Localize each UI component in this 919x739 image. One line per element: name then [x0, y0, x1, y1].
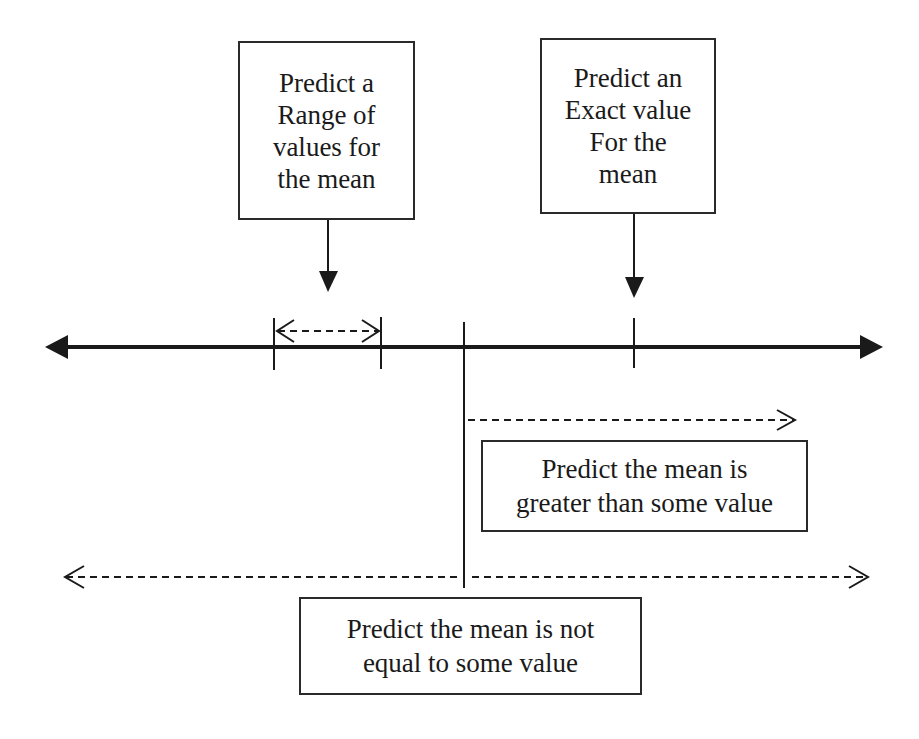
- exact-prediction-box: Predict an Exact value For the mean: [540, 38, 716, 214]
- exact-prediction-label: Predict an Exact value For the mean: [565, 62, 692, 190]
- greater-than-prediction-box: Predict the mean is greater than some va…: [481, 440, 808, 532]
- range-prediction-box: Predict a Range of values for the mean: [238, 41, 415, 220]
- greater-than-dashed-arrow: [468, 410, 795, 430]
- exact-box-pointer-arrow: [625, 214, 644, 298]
- down-arrowhead-icon: [625, 277, 644, 298]
- range-box-pointer-arrow: [319, 220, 338, 292]
- not-equal-dashed-arrow: [65, 566, 868, 588]
- greater-than-prediction-label: Predict the mean is greater than some va…: [516, 452, 773, 520]
- not-equal-prediction-box: Predict the mean is not equal to some va…: [299, 597, 642, 695]
- range-prediction-label: Predict a Range of values for the mean: [273, 67, 380, 195]
- not-equal-prediction-label: Predict the mean is not equal to some va…: [347, 612, 594, 680]
- down-arrowhead-icon: [319, 271, 338, 292]
- left-arrowhead-icon: [45, 335, 68, 359]
- range-dashed-arrow: [277, 320, 379, 342]
- right-arrowhead-icon: [860, 335, 883, 359]
